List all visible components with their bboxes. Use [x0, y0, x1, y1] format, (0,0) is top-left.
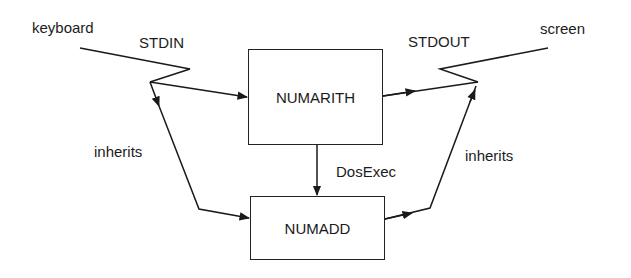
screen-label: screen	[540, 21, 585, 36]
stdout-label: STDOUT	[408, 34, 470, 49]
numadd-node: NUMADD	[250, 196, 385, 260]
stdin-label: STDIN	[139, 35, 184, 50]
numarith-label: NUMARITH	[276, 89, 355, 106]
numadd-label: NUMADD	[285, 220, 351, 237]
inherits-left-label: inherits	[94, 144, 142, 159]
inherits-right-line	[385, 86, 476, 219]
inherits-left-line	[159, 106, 249, 218]
inherits-right-arrowhead	[470, 90, 475, 102]
keyboard-label: keyboard	[32, 20, 94, 35]
stdout-screen-line	[440, 48, 548, 82]
stdin-inherit-arrowhead-seg	[150, 82, 159, 106]
numarith-node: NUMARITH	[248, 49, 383, 145]
keyboard-stdin-line	[80, 48, 190, 82]
stdin-to-numarith-arrow	[150, 82, 247, 97]
inherits-right-label: inherits	[465, 148, 513, 163]
numarith-to-stdout-arrowhead	[383, 91, 415, 96]
dosexec-label: DosExec	[336, 164, 396, 179]
